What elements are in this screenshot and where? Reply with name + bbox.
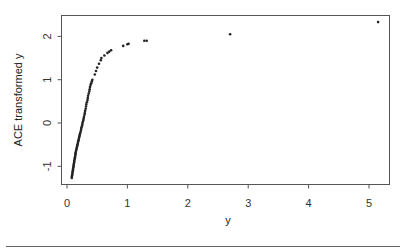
data-point	[229, 33, 232, 36]
data-point	[110, 49, 113, 52]
data-point	[94, 73, 97, 76]
data-points	[71, 21, 380, 180]
x-tick-label: 5	[366, 197, 372, 209]
data-point	[98, 62, 101, 65]
data-point	[89, 86, 92, 89]
data-point	[88, 90, 91, 93]
plot-frame	[62, 16, 390, 185]
data-point	[103, 54, 106, 57]
data-point	[122, 45, 125, 48]
data-point	[143, 39, 146, 42]
data-point	[145, 39, 148, 42]
data-point	[85, 103, 88, 106]
y-axis-label: ACE transformed y	[12, 53, 24, 146]
data-point	[96, 66, 99, 69]
data-point	[84, 107, 87, 110]
x-tick-label: 2	[185, 197, 191, 209]
data-point	[91, 78, 94, 81]
y-tick-label: -1	[41, 161, 53, 171]
data-point	[84, 110, 87, 113]
data-point	[377, 21, 380, 24]
y-axis: -1012	[41, 33, 62, 171]
y-tick-label: 2	[41, 33, 53, 39]
x-axis: 012345	[64, 185, 372, 210]
x-tick-label: 0	[64, 197, 70, 209]
data-point	[100, 57, 103, 60]
x-tick-label: 1	[124, 197, 130, 209]
x-axis-label: y	[225, 214, 231, 226]
y-tick-label: 1	[41, 77, 53, 83]
data-point	[86, 99, 89, 102]
data-point	[95, 70, 98, 73]
x-tick-label: 4	[306, 197, 312, 209]
scatter-plot: 012345 -1012 y ACE transformed y	[0, 0, 404, 250]
data-point	[127, 43, 130, 46]
x-tick-label: 3	[245, 197, 251, 209]
data-point	[87, 97, 90, 100]
y-tick-label: 0	[41, 120, 53, 126]
data-point	[87, 92, 90, 95]
